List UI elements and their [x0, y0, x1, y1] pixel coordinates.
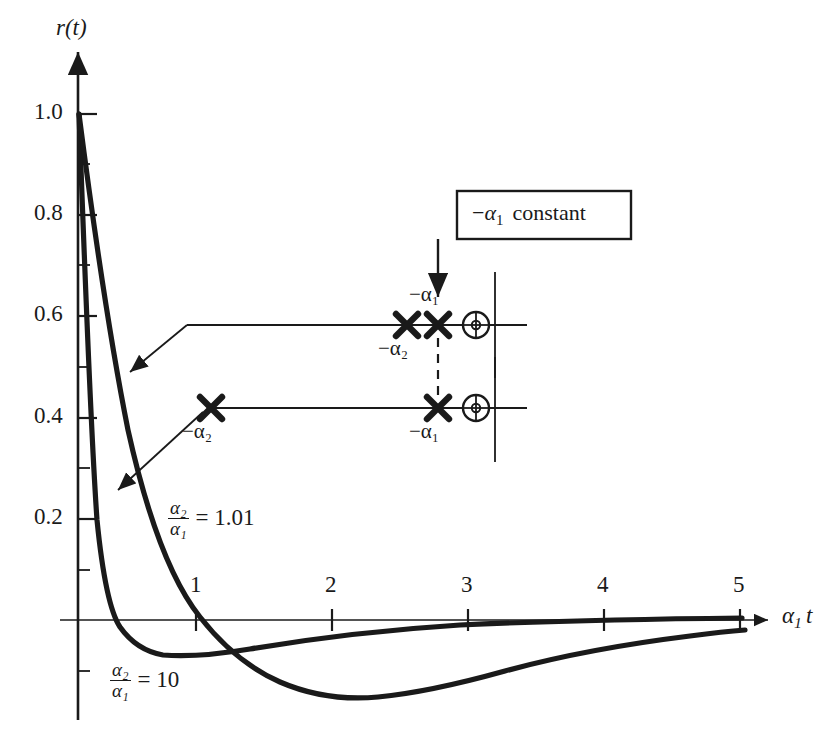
- leader-arrow-upper: [130, 325, 187, 372]
- x-tick-label-2: 2: [325, 572, 337, 598]
- y-axis-label: r(t): [56, 15, 87, 41]
- callout-box-label: −α1constant: [472, 200, 586, 229]
- origin-marker-bottom: [462, 394, 490, 422]
- curve-label-fraction-1: α₂ α₁: [168, 498, 189, 539]
- pole-label-alpha2-top: −α₂: [378, 336, 408, 361]
- curve-label-fraction-2: α₂ α₁: [110, 660, 131, 701]
- y-tick-label-4: 0.4: [34, 403, 63, 429]
- pole-diagram-bottom: [200, 357, 527, 462]
- pole-label-alpha1-top: −α₁: [409, 282, 439, 307]
- origin-marker-top: [462, 311, 490, 339]
- x-tick-label-4: 4: [597, 572, 609, 598]
- pole-label-alpha2-bottom: −α₂: [182, 419, 212, 444]
- x-tick-label-5: 5: [733, 572, 745, 598]
- x-axis-label: α1t: [782, 603, 812, 632]
- curve-label-ratio-1p01: α₂ α₁ = 1.01: [168, 498, 255, 539]
- pole-label-alpha1-bottom: −α₁: [409, 419, 439, 444]
- y-tick-label-3: 0.6: [34, 301, 63, 327]
- x-tick-label-1: 1: [190, 572, 202, 598]
- curve-ratio-10: [79, 114, 742, 656]
- curve-ratio-1p01: [79, 114, 745, 698]
- curve-label-ratio-10: α₂ α₁ = 10: [110, 660, 179, 701]
- x-tick-label-3: 3: [461, 572, 473, 598]
- impulse-response-figure: [0, 0, 835, 754]
- y-tick-label-2: 0.8: [34, 200, 63, 226]
- y-tick-label-5: 0.2: [34, 504, 63, 530]
- y-tick-label-1: 1.0: [34, 99, 63, 125]
